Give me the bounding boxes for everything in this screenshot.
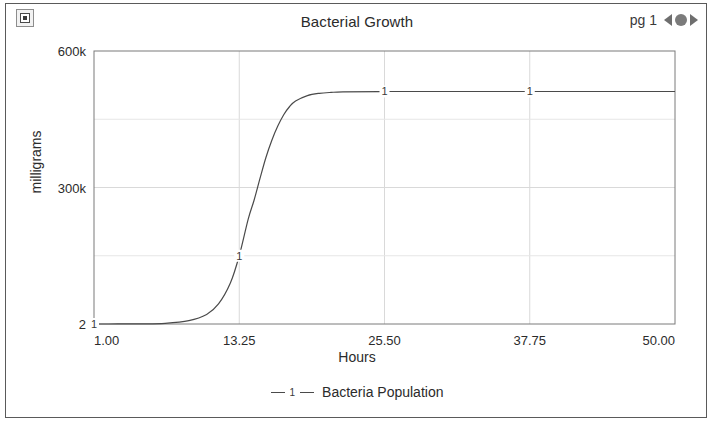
svg-text:1: 1 [527, 85, 533, 97]
svg-text:1: 1 [236, 250, 242, 262]
svg-text:13.25: 13.25 [223, 333, 256, 348]
report-frame: Bacterial Growth pg 1 2300k600k 1.0013.2… [5, 3, 707, 418]
y-axis-tick-labels: 2300k600k [58, 44, 87, 332]
svg-text:1: 1 [381, 85, 387, 97]
y-axis-title: milligrams [28, 102, 44, 222]
legend-line-right [300, 392, 314, 393]
x-axis-title: Hours [6, 349, 708, 365]
svg-text:1.00: 1.00 [94, 333, 119, 348]
chart-legend: 1 Bacteria Population [6, 384, 708, 400]
svg-text:1: 1 [91, 318, 97, 330]
svg-text:25.50: 25.50 [368, 333, 401, 348]
chart-area: 2300k600k 1.0013.2525.5037.7550.00 1111 … [6, 4, 708, 419]
legend-line-left [271, 392, 285, 393]
svg-text:2: 2 [79, 317, 86, 332]
legend-marker-label: 1 [289, 387, 297, 398]
svg-text:50.00: 50.00 [642, 333, 675, 348]
chart-series-markers: 1111 [89, 85, 535, 330]
svg-text:300k: 300k [58, 181, 87, 196]
x-axis-tick-labels: 1.0013.2525.5037.7550.00 [94, 333, 675, 348]
legend-entry-label: Bacteria Population [322, 384, 443, 400]
svg-text:600k: 600k [58, 44, 87, 59]
svg-text:37.75: 37.75 [513, 333, 546, 348]
